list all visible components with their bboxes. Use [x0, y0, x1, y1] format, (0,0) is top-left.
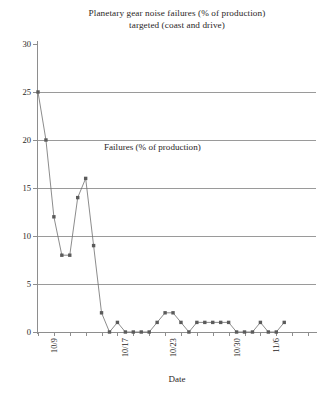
- data-point-marker: [132, 330, 135, 333]
- series-line: [38, 92, 284, 332]
- data-point-marker: [68, 254, 71, 257]
- data-point-marker: [243, 330, 246, 333]
- data-point-marker: [52, 215, 55, 218]
- x-axis-title: Date: [38, 374, 316, 384]
- data-point-marker: [100, 311, 103, 314]
- data-point-marker: [283, 321, 286, 324]
- data-point-marker: [187, 330, 190, 333]
- data-point-marker: [108, 330, 111, 333]
- data-point-marker: [227, 321, 230, 324]
- data-point-marker: [155, 321, 158, 324]
- data-point-marker: [76, 196, 79, 199]
- data-point-marker: [203, 321, 206, 324]
- data-point-marker: [140, 330, 143, 333]
- data-point-marker: [275, 330, 278, 333]
- data-point-marker: [171, 311, 174, 314]
- data-point-marker: [195, 321, 198, 324]
- data-point-marker: [36, 90, 39, 93]
- series-plot: [0, 0, 332, 397]
- data-point-marker: [251, 330, 254, 333]
- data-point-marker: [116, 321, 119, 324]
- chart-figure: Planetary gear noise failures (% of prod…: [0, 0, 332, 397]
- data-point-marker: [219, 321, 222, 324]
- data-point-marker: [60, 254, 63, 257]
- data-point-marker: [259, 321, 262, 324]
- data-point-marker: [235, 330, 238, 333]
- data-point-marker: [211, 321, 214, 324]
- data-point-marker: [124, 330, 127, 333]
- data-point-marker: [44, 138, 47, 141]
- data-point-marker: [148, 330, 151, 333]
- data-point-marker: [267, 330, 270, 333]
- data-point-marker: [163, 311, 166, 314]
- data-point-marker: [179, 321, 182, 324]
- data-point-marker: [92, 244, 95, 247]
- data-point-marker: [84, 177, 87, 180]
